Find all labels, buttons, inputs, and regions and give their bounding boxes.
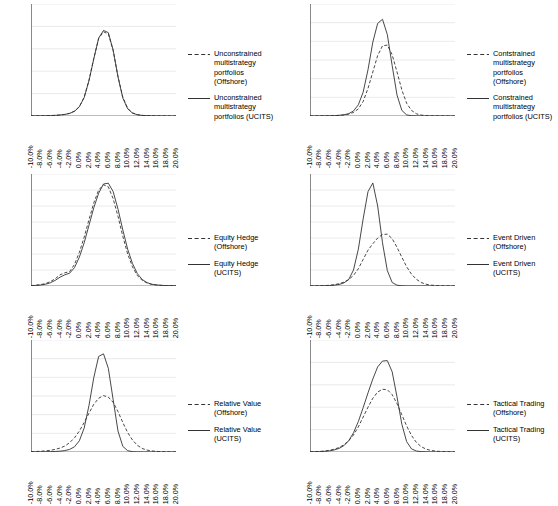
x-tick-label: -8.0% (315, 149, 322, 168)
plot-area-unconstrained-multistrategy: -10.0%-8.0%-6.0%-4.0%-2.0%0.0%2.0%4.0%6.… (0, 0, 190, 170)
legend-swatch-dashed-line-icon (188, 400, 210, 409)
x-tick-label: 12.0% (133, 148, 140, 168)
x-tick-label: 18.0% (441, 484, 448, 504)
x-tick-label: -6.0% (46, 149, 53, 168)
x-tick-label: 8.0% (392, 152, 399, 168)
legend-label: Event Driven (UCITS) (493, 259, 558, 277)
x-tick-label: 4.0% (373, 152, 380, 168)
x-tick-label: -2.0% (344, 485, 351, 504)
chart-panel-relative-value: -10.0%-8.0%-6.0%-4.0%-2.0%0.0%2.0%4.0%6.… (0, 336, 279, 506)
x-tick-label: 12.0% (412, 318, 419, 338)
x-tick-label: -4.0% (55, 485, 62, 504)
x-tick-label: 18.0% (441, 148, 448, 168)
x-tick-label: 10.0% (402, 484, 409, 504)
x-tick-label: 0.0% (75, 488, 82, 504)
series-line-offshore (310, 389, 455, 452)
x-tick-label: 16.0% (152, 318, 159, 338)
y-axis-labels (279, 0, 309, 118)
y-axis-labels (0, 170, 30, 288)
x-tick-label: 12.0% (412, 148, 419, 168)
x-tick-label: 20.0% (171, 148, 178, 168)
legend-item[interactable]: Tactical Trading (UCITS) (467, 425, 558, 443)
x-tick-label: 14.0% (142, 148, 149, 168)
x-tick-label: 10.0% (123, 318, 130, 338)
chart-canvas (310, 340, 455, 452)
x-tick-label: -8.0% (36, 149, 43, 168)
x-tick-label: 20.0% (171, 484, 178, 504)
series-line-ucits (310, 183, 455, 286)
series-line-offshore (31, 396, 176, 452)
legend-item[interactable]: Constrained multistrategy portfolios (UC… (467, 93, 558, 121)
legend-item[interactable]: Unconstrained multistrategy portfolios (… (188, 93, 279, 121)
x-tick-label: 4.0% (373, 488, 380, 504)
legend-label: Unconstrained multistrategy portfolios (… (214, 49, 279, 86)
x-axis-labels: -10.0%-8.0%-6.0%-4.0%-2.0%0.0%2.0%4.0%6.… (310, 290, 455, 338)
x-tick-label: -4.0% (334, 149, 341, 168)
y-axis-labels (279, 336, 309, 454)
x-tick-label: 16.0% (431, 318, 438, 338)
x-tick-label: 16.0% (431, 484, 438, 504)
x-tick-label: 6.0% (383, 152, 390, 168)
y-axis-labels (279, 170, 309, 288)
chart-canvas (310, 4, 455, 116)
legend-tactical-trading: Tactical Trading (Offshore)Tactical Trad… (467, 336, 558, 506)
x-tick-label: 20.0% (450, 318, 457, 338)
x-tick-label: 16.0% (152, 148, 159, 168)
x-tick-label: -2.0% (65, 149, 72, 168)
legend-swatch-solid-line-icon (188, 94, 210, 103)
x-tick-label: -10.0% (305, 315, 312, 338)
legend-label: Tactical Trading (Offshore) (493, 399, 558, 417)
x-tick-label: -10.0% (305, 145, 312, 168)
series-line-ucits (310, 19, 455, 116)
legend-swatch-dashed-line-icon (467, 400, 489, 409)
x-tick-label: 2.0% (84, 488, 91, 504)
legend-item[interactable]: Unconstrained multistrategy portfolios (… (188, 49, 279, 86)
x-tick-label: 20.0% (450, 148, 457, 168)
x-tick-label: 4.0% (94, 488, 101, 504)
legend-relative-value: Relative Value (Offshore)Relative Value … (188, 336, 279, 506)
x-tick-label: -6.0% (325, 149, 332, 168)
series-line-ucits (310, 361, 455, 452)
x-tick-label: 12.0% (412, 484, 419, 504)
x-tick-label: 16.0% (431, 148, 438, 168)
legend-equity-hedge: Equity Hedge (Offshore)Equity Hedge (UCI… (188, 170, 279, 340)
x-tick-label: -4.0% (55, 149, 62, 168)
legend-item[interactable]: Event Driven (Offshore) (467, 233, 558, 251)
x-tick-label: 0.0% (354, 488, 361, 504)
legend-item[interactable]: Relative Value (Offshore) (188, 399, 279, 417)
legend-swatch-dashed-line-icon (188, 234, 210, 243)
x-tick-label: -6.0% (46, 485, 53, 504)
x-axis-labels: -10.0%-8.0%-6.0%-4.0%-2.0%0.0%2.0%4.0%6.… (310, 456, 455, 504)
x-axis-labels: -10.0%-8.0%-6.0%-4.0%-2.0%0.0%2.0%4.0%6.… (31, 456, 176, 504)
y-axis-labels (0, 336, 30, 454)
chart-panel-tactical-trading: -10.0%-8.0%-6.0%-4.0%-2.0%0.0%2.0%4.0%6.… (279, 336, 558, 506)
x-tick-label: 6.0% (383, 488, 390, 504)
x-tick-label: 18.0% (162, 148, 169, 168)
legend-item[interactable]: Relative Value (UCITS) (188, 425, 279, 443)
legend-label: Relative Value (UCITS) (214, 425, 279, 443)
x-tick-label: 18.0% (162, 484, 169, 504)
x-tick-label: -10.0% (26, 481, 33, 504)
x-tick-label: 6.0% (104, 152, 111, 168)
legend-label: Contstrained multistrategy portfoilos (O… (493, 49, 558, 86)
legend-label: Event Driven (Offshore) (493, 233, 558, 251)
legend-item[interactable]: Equity Hedge (Offshore) (188, 233, 279, 251)
x-tick-label: 6.0% (104, 488, 111, 504)
chart-panel-unconstrained-multistrategy: -10.0%-8.0%-6.0%-4.0%-2.0%0.0%2.0%4.0%6.… (0, 0, 279, 170)
x-tick-label: 2.0% (363, 152, 370, 168)
x-tick-label: 8.0% (113, 488, 120, 504)
x-axis-labels: -10.0%-8.0%-6.0%-4.0%-2.0%0.0%2.0%4.0%6.… (310, 120, 455, 168)
legend-item[interactable]: Event Driven (UCITS) (467, 259, 558, 277)
legend-item[interactable]: Equity Hedge (UCITS) (188, 259, 279, 277)
legend-item[interactable]: Contstrained multistrategy portfoilos (O… (467, 49, 558, 86)
plot-area-tactical-trading: -10.0%-8.0%-6.0%-4.0%-2.0%0.0%2.0%4.0%6.… (279, 336, 469, 506)
legend-item[interactable]: Tactical Trading (Offshore) (467, 399, 558, 417)
x-tick-label: 18.0% (441, 318, 448, 338)
chart-panel-event-driven: -10.0%-8.0%-6.0%-4.0%-2.0%0.0%2.0%4.0%6.… (279, 170, 558, 336)
plot-area-constrained-multistrategy: -10.0%-8.0%-6.0%-4.0%-2.0%0.0%2.0%4.0%6.… (279, 0, 469, 170)
x-tick-label: 14.0% (142, 484, 149, 504)
x-tick-label: -10.0% (26, 315, 33, 338)
x-tick-label: -8.0% (36, 485, 43, 504)
chart-canvas (31, 4, 176, 116)
x-tick-label: 14.0% (421, 484, 428, 504)
